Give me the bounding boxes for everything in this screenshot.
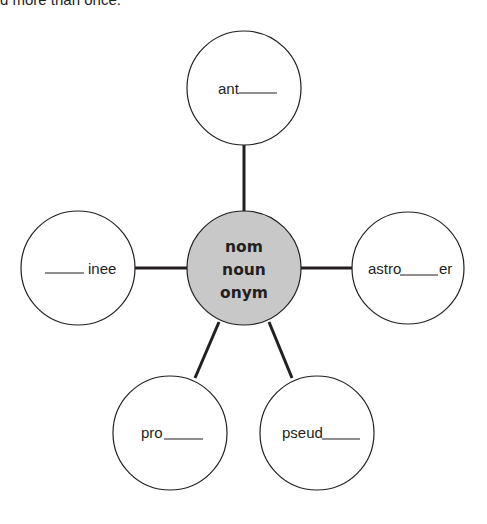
center-line-2: noun: [222, 261, 266, 279]
node-bottom-right-prefix: pseud: [282, 424, 323, 441]
node-right-prefix: astro: [368, 260, 401, 277]
node-right: astro er: [352, 212, 464, 324]
node-bottom-left-prefix: pro: [141, 424, 163, 441]
connector-bottom-left: [195, 322, 219, 378]
node-bottom-right: pseud: [260, 376, 374, 490]
node-top: ant: [187, 31, 301, 145]
connector-bottom-right: [269, 322, 292, 378]
node-left: inee: [21, 211, 135, 325]
node-bottom-left: pro: [113, 376, 227, 490]
node-center: nom noun onym: [187, 211, 301, 325]
center-line-3: onym: [220, 284, 268, 302]
word-web-diagram: ant inee astro er pro pseud nom noun ony…: [0, 0, 487, 524]
center-line-1: nom: [225, 238, 263, 256]
node-right-suffix: er: [439, 260, 452, 277]
node-left-suffix: inee: [88, 260, 116, 277]
node-top-prefix: ant: [218, 80, 240, 97]
